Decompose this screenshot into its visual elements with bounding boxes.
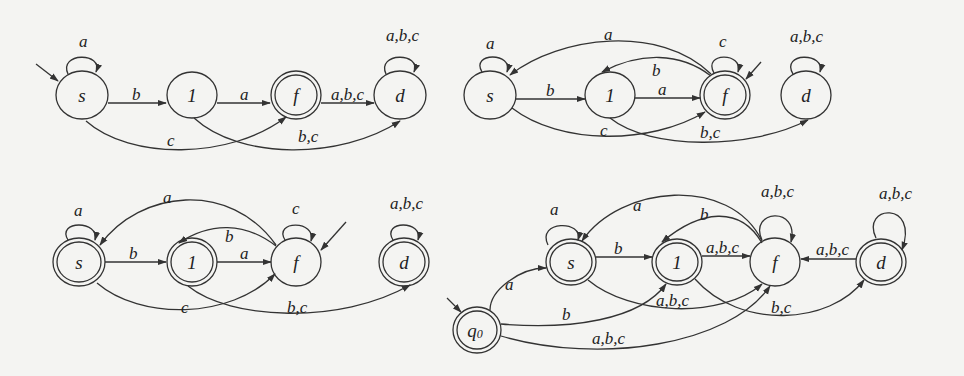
start-arrow	[447, 298, 461, 312]
start-arrow	[321, 222, 346, 250]
edge-label: a,b,c	[761, 182, 795, 201]
state-label: d	[876, 252, 886, 273]
state-1-accepting: 1	[167, 238, 217, 286]
state-label: s	[567, 252, 574, 273]
edge-label: b	[614, 239, 623, 258]
edge-label: a	[658, 80, 667, 99]
state-d-accepting: d	[856, 239, 906, 285]
edge-label: a	[486, 34, 495, 53]
edge-label: c	[600, 121, 608, 140]
edge-label: b,c	[287, 298, 308, 317]
edge-label: a	[240, 85, 249, 104]
state-d: d	[374, 71, 426, 119]
state-s: s	[464, 71, 516, 119]
state-label: f	[293, 252, 301, 273]
state-1: 1	[585, 72, 635, 118]
edge-label: a	[240, 244, 249, 263]
edge-s-s	[480, 57, 508, 72]
state-label: f	[722, 85, 730, 106]
edge-label: b,c	[298, 127, 319, 146]
dfa-figure: s 1 f d a b a a,b,c a,b,c c b,c	[0, 0, 964, 376]
state-label: s	[486, 85, 493, 106]
edge-label: a,b,c	[386, 26, 420, 45]
edge-label: a,b,c	[331, 85, 365, 104]
state-1: 1	[167, 72, 217, 118]
state-f: f	[750, 238, 800, 286]
dfa-diagram-2: s 1 f d a b a c a b c b,c	[464, 25, 831, 142]
state-1-accepting: 1	[652, 239, 702, 285]
dfa-diagram-4: q0 s 1 f d a b a,b,c a	[447, 182, 913, 353]
edge-label: b	[129, 244, 138, 263]
state-f-accepting: f	[700, 71, 750, 119]
edge-s-f	[512, 108, 705, 136]
state-label: d	[801, 85, 811, 106]
start-arrow	[746, 62, 761, 79]
edge-label: a	[74, 201, 83, 220]
edge-label: b	[132, 85, 141, 104]
state-label: 1	[672, 252, 682, 273]
state-label: 1	[187, 252, 197, 273]
state-label: s	[75, 252, 82, 273]
edge-label: b,c	[700, 123, 721, 142]
state-label: f	[772, 252, 780, 273]
state-f: f	[271, 238, 321, 286]
edge-label: b,c	[771, 298, 792, 317]
state-s-accepting: s	[53, 238, 105, 286]
edge-s-s	[546, 226, 578, 245]
state-label: s	[78, 85, 85, 106]
edge-label: a	[604, 25, 613, 44]
state-label: d	[399, 252, 409, 273]
edge-label: b	[225, 227, 234, 246]
edge-q0-f	[501, 286, 770, 349]
edge-label: a,b,c	[816, 240, 850, 259]
edge-label: a	[505, 275, 514, 294]
edge-label: a	[633, 196, 642, 215]
edge-label: a,b,c	[592, 329, 626, 348]
state-label: q0	[467, 320, 483, 342]
edge-label: a,b,c	[390, 194, 424, 213]
state-label: f	[293, 85, 301, 106]
edge-label: c	[181, 298, 189, 317]
edge-label: a	[79, 32, 88, 51]
state-label: 1	[605, 85, 615, 106]
state-label: d	[395, 85, 405, 106]
edge-label: a,b,c	[706, 238, 740, 257]
edge-label: c	[292, 199, 300, 218]
edge-q0-s	[490, 268, 546, 310]
dfa-diagram-1: s 1 f d a b a a,b,c a,b,c c b,c	[36, 26, 426, 150]
dfa-diagram-3: s 1 f d a b a c a b c b,c	[53, 188, 429, 317]
state-d: d	[781, 71, 831, 119]
edge-label: a	[550, 200, 559, 219]
edge-label: b	[546, 81, 555, 100]
state-s: s	[56, 71, 108, 119]
edge-label: a,b,c	[790, 27, 824, 46]
state-f-accepting: f	[271, 71, 321, 119]
edge-f-s	[510, 41, 711, 75]
edge-label: a,b,c	[656, 291, 690, 310]
start-arrow	[36, 64, 58, 81]
edge-label: c	[719, 32, 727, 51]
edge-label: b	[652, 61, 661, 80]
edge-s-f	[86, 117, 286, 150]
state-d-accepting: d	[379, 238, 429, 286]
edge-label: a	[163, 188, 172, 207]
edge-label: b	[700, 205, 709, 224]
state-label: 1	[187, 85, 197, 106]
state-q0-accepting: q0	[453, 307, 501, 353]
edge-label: c	[167, 131, 175, 150]
edge-label: a,b,c	[879, 184, 913, 203]
state-s-accepting: s	[546, 239, 596, 285]
edge-label: b	[562, 305, 571, 324]
